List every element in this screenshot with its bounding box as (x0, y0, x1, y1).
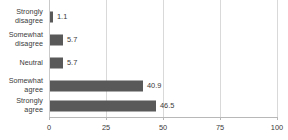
gridline-100 (277, 0, 278, 117)
value-label-somewhat-disagree: 5.7 (67, 36, 77, 44)
gridline-50 (163, 0, 164, 117)
x-tick-label-25: 25 (94, 123, 118, 132)
bar-chart: Strongly disagree Somewhat disagree Neut… (0, 0, 288, 140)
bar-neutral (50, 58, 63, 69)
value-label-somewhat-agree: 40.9 (147, 82, 161, 90)
x-tick-label-75: 75 (208, 123, 232, 132)
x-tick-label-50: 50 (151, 123, 175, 132)
category-label-strongly-disagree: Strongly disagree (0, 8, 43, 25)
value-label-neutral: 5.7 (67, 59, 77, 67)
value-label-strongly-agree: 46.5 (160, 102, 174, 110)
category-label-neutral: Neutral (0, 59, 43, 68)
x-tick-label-100: 100 (265, 123, 288, 132)
tick-mark-25 (106, 117, 107, 120)
bar-strongly-disagree (50, 12, 53, 23)
plot-area: 1.1 5.7 5.7 40.9 46.5 (49, 0, 277, 117)
gridline-75 (220, 0, 221, 117)
tick-mark-0 (49, 117, 50, 120)
tick-mark-50 (163, 117, 164, 120)
category-label-strongly-agree: Strongly agree (0, 97, 43, 114)
category-label-somewhat-disagree: Somewhat disagree (0, 31, 43, 48)
x-tick-label-0: 0 (37, 123, 61, 132)
bar-strongly-agree (50, 101, 156, 112)
value-label-strongly-disagree: 1.1 (57, 13, 67, 21)
tick-mark-75 (220, 117, 221, 120)
tick-mark-100 (277, 117, 278, 120)
bar-somewhat-agree (50, 81, 143, 92)
category-axis-labels: Strongly disagree Somewhat disagree Neut… (0, 0, 46, 117)
category-label-somewhat-agree: Somewhat agree (0, 77, 43, 94)
bar-somewhat-disagree (50, 35, 63, 46)
gridline-25 (106, 0, 107, 117)
